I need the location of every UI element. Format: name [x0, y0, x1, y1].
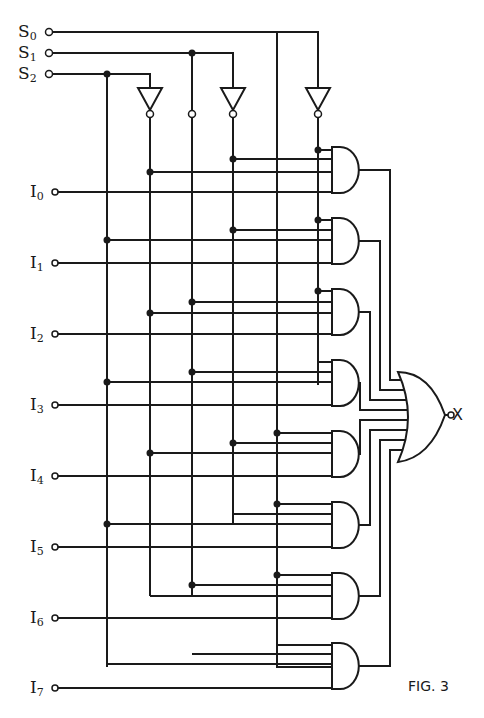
label-i7: I7	[30, 679, 44, 698]
or-input-wires	[358, 170, 411, 666]
label-i6: I6	[30, 609, 44, 628]
mux-circuit-diagram	[0, 0, 484, 718]
label-i0: I0	[30, 183, 44, 202]
inverter-s2	[138, 88, 162, 118]
label-i2: I2	[30, 325, 44, 344]
label-i5: I5	[30, 538, 44, 557]
label-i1: I1	[30, 254, 44, 273]
and-inputs	[58, 150, 332, 688]
label-i3: I3	[30, 396, 44, 415]
label-s2: S2	[18, 65, 37, 84]
or-gate	[398, 372, 445, 462]
input-pins	[46, 29, 59, 692]
and-gates	[332, 147, 359, 689]
label-i4: I4	[30, 467, 44, 486]
select-wires	[52, 32, 332, 667]
s1-tap-pin	[189, 111, 196, 118]
inverter-s1	[221, 88, 245, 118]
inverter-s0	[306, 88, 330, 118]
output-label: X	[452, 405, 463, 424]
junction-dots	[104, 50, 322, 589]
figure-caption: FIG. 3	[408, 678, 449, 694]
label-s1: S1	[18, 44, 37, 63]
label-s0: S0	[18, 23, 37, 42]
